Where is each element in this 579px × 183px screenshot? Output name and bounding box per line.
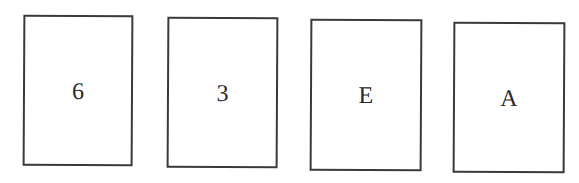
card-a: A — [453, 22, 566, 174]
card-label: 3 — [216, 80, 228, 104]
card-6: 6 — [23, 15, 134, 167]
card-e: E — [310, 19, 423, 172]
card-3: 3 — [167, 17, 279, 169]
card-label: E — [359, 83, 374, 107]
card-label: 6 — [72, 78, 84, 102]
card-label: A — [500, 85, 517, 109]
